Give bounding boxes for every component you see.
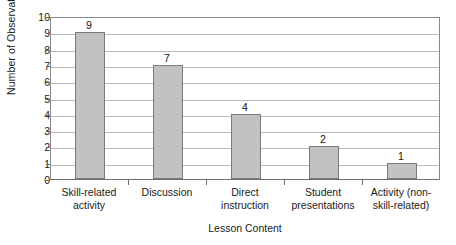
bar (75, 32, 105, 179)
x-axis-category-label: Activity (non-skill-related) (362, 186, 440, 211)
bar-value-label: 7 (147, 53, 187, 64)
bar-value-label: 4 (225, 102, 265, 113)
bar (387, 163, 417, 179)
bar-value-label: 9 (69, 20, 109, 31)
y-axis-tick-label: 4 (8, 110, 50, 120)
x-axis-tick-mark (284, 180, 285, 185)
x-axis-tick-mark (206, 180, 207, 185)
gridline (51, 51, 439, 52)
bar (153, 65, 183, 179)
x-axis-category-label-line: Skill-related (50, 186, 128, 199)
x-axis-category-label-line: activity (50, 199, 128, 212)
bar (309, 146, 339, 179)
y-axis-tick-group: 109876543210 (0, 17, 50, 180)
y-axis-tick-label: 0 (8, 175, 50, 185)
x-axis-category-label: Discussion (128, 186, 206, 199)
x-axis-category-label-line: skill-related) (362, 199, 440, 212)
gridline (51, 83, 439, 84)
y-axis-tick-label: 10 (8, 12, 50, 22)
x-axis-category-label-group: Skill-relatedactivityDiscussionDirectins… (50, 186, 440, 218)
x-axis-category-label-line: Direct (206, 186, 284, 199)
y-axis-tick-label: 2 (8, 142, 50, 152)
y-axis-tick-label: 9 (8, 28, 50, 38)
bar-value-label: 1 (381, 151, 421, 162)
x-axis-category-label-line: Student (284, 186, 362, 199)
bar (231, 114, 261, 179)
x-axis-tick-mark (128, 180, 129, 185)
x-axis-category-label-line: Activity (non- (362, 186, 440, 199)
x-axis-category-label-line: Discussion (128, 186, 206, 199)
y-axis-tick-label: 1 (8, 159, 50, 169)
x-axis-category-label: Directinstruction (206, 186, 284, 211)
y-axis-tick-label: 5 (8, 94, 50, 104)
y-axis-tick-label: 8 (8, 45, 50, 55)
y-axis-tick-label: 3 (8, 126, 50, 136)
x-axis-category-label-line: presentations (284, 199, 362, 212)
bar-value-label: 2 (303, 134, 343, 145)
x-axis-category-label: Studentpresentations (284, 186, 362, 211)
y-axis-tick-label: 6 (8, 77, 50, 87)
x-axis-category-label-line: instruction (206, 199, 284, 212)
bar-chart: Number of Observations 109876543210 9742… (0, 0, 456, 245)
x-axis-tick-mark (362, 180, 363, 185)
gridline (51, 67, 439, 68)
y-axis-tick-label: 7 (8, 61, 50, 71)
x-axis-category-label: Skill-relatedactivity (50, 186, 128, 211)
gridline (51, 34, 439, 35)
x-axis-title: Lesson Content (50, 222, 440, 234)
